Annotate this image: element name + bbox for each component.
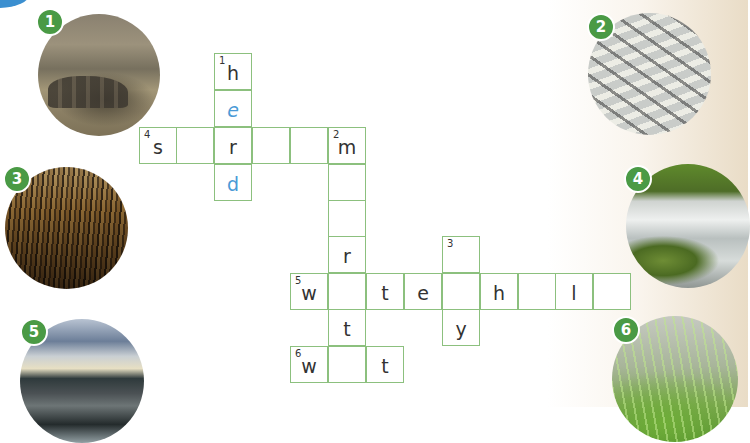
crossword-cell-r6c5[interactable]: [328, 273, 366, 310]
crossword-cell-r6c10[interactable]: [518, 273, 556, 310]
crossword-cell-r6c8[interactable]: [442, 273, 480, 310]
cell-letter: e: [227, 101, 239, 120]
crossword-cell-r4c5[interactable]: [328, 200, 366, 237]
crossword-cell-r2c2[interactable]: r: [214, 127, 252, 164]
crossword-cell-r1c2[interactable]: e: [214, 90, 252, 127]
crossword-cell-r7c8[interactable]: y: [442, 309, 480, 346]
cell-letter: e: [417, 284, 429, 303]
cell-letter: r: [229, 138, 237, 157]
elephants-silhouette: [48, 76, 128, 108]
crossword-cell-r6c12[interactable]: [593, 273, 631, 310]
cell-letter: r: [343, 247, 351, 266]
crossword-cell-r3c5[interactable]: [328, 164, 366, 201]
cell-letter: d: [227, 175, 239, 194]
crossword-cell-r6c9[interactable]: h: [480, 273, 518, 310]
crossword-cell-r6c4[interactable]: 5 w: [290, 273, 328, 310]
exercise-marker-partial: [0, 0, 30, 8]
photo-number-badge-5: 5: [20, 318, 48, 346]
crossword-cell-r2c1[interactable]: [176, 127, 214, 164]
cell-letter: h: [227, 64, 239, 83]
crossword-cell-r2c5[interactable]: 2 m: [328, 127, 366, 164]
photo-number-badge-4: 4: [624, 165, 652, 193]
crossword-cell-r6c11[interactable]: l: [555, 273, 593, 310]
crossword-cell-r2c3[interactable]: [252, 127, 290, 164]
crossword-cell-r5c8[interactable]: 3: [442, 236, 480, 273]
clue-number-5: 5: [295, 275, 301, 286]
cell-letter: m: [338, 138, 357, 157]
crossword-cell-r8c6[interactable]: t: [366, 346, 404, 383]
clue-number-3: 3: [447, 238, 453, 249]
photo-number-badge-3: 3: [3, 165, 31, 193]
photo-number-badge-6: 6: [612, 316, 640, 344]
clue-number-4: 4: [144, 129, 150, 140]
cell-letter: t: [343, 320, 350, 339]
crossword-cell-r7c5[interactable]: t: [328, 309, 366, 346]
crossword-cell-r0c2[interactable]: 1 h: [214, 53, 252, 90]
crossword-cell-r8c4[interactable]: 6 w: [290, 346, 328, 383]
cell-letter: w: [301, 357, 317, 376]
clue-number-6: 6: [295, 348, 301, 359]
crossword-cell-r5c5[interactable]: r: [328, 236, 366, 273]
photo-number-badge-1: 1: [36, 8, 64, 36]
crossword-cell-r8c5[interactable]: [328, 346, 366, 383]
cell-letter: t: [381, 357, 388, 376]
crossword-cell-r6c6[interactable]: t: [366, 273, 404, 310]
photo-number-badge-2: 2: [587, 13, 615, 41]
cell-letter: l: [571, 284, 576, 303]
crossword-cell-r6c7[interactable]: e: [404, 273, 442, 310]
cell-letter: t: [381, 284, 388, 303]
clue-number-1: 1: [219, 55, 225, 66]
cell-letter: s: [153, 138, 163, 157]
crossword-cell-r3c2[interactable]: d: [214, 164, 252, 201]
clue-number-2: 2: [333, 129, 339, 140]
crossword-cell-r2c0[interactable]: 4 s: [139, 127, 177, 164]
cell-letter: y: [455, 320, 466, 339]
cell-letter: w: [301, 284, 317, 303]
cell-letter: h: [493, 284, 505, 303]
crossword-cell-r2c4[interactable]: [290, 127, 328, 164]
